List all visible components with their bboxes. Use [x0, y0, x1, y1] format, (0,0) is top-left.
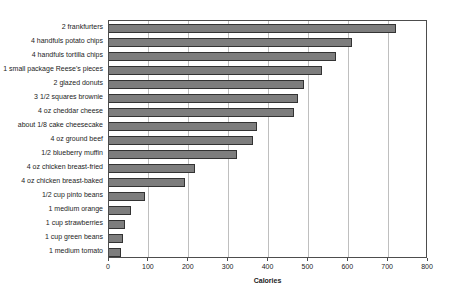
- category-label: 4 handfuls tortilla chips: [0, 48, 103, 62]
- bar: [109, 66, 322, 75]
- calorie-bar-chart: 2 frankfurters4 handfuls potato chips4 h…: [0, 0, 450, 292]
- category-label: 4 oz cheddar cheese: [0, 104, 103, 118]
- category-label: 1/2 blueberry muffin: [0, 146, 103, 160]
- x-tick-label: 0: [106, 263, 110, 271]
- bar: [109, 136, 253, 145]
- category-label: 4 oz chicken breast-fried: [0, 160, 103, 174]
- category-label: 4 oz chicken breast-baked: [0, 174, 103, 188]
- bar: [109, 220, 125, 229]
- x-tick-mark: [427, 258, 428, 261]
- bar: [109, 192, 145, 201]
- bar: [109, 94, 298, 103]
- x-tick-mark: [307, 258, 308, 261]
- bar: [109, 150, 237, 159]
- bar: [109, 52, 336, 61]
- x-tick-label: 200: [182, 263, 194, 271]
- bar: [109, 206, 131, 215]
- category-label: 3 1/2 squares brownie: [0, 90, 103, 104]
- category-label: 1 medium orange: [0, 202, 103, 216]
- gridline: [348, 21, 349, 257]
- x-tick-mark: [108, 258, 109, 261]
- bar: [109, 80, 304, 89]
- category-label: 1 medium tomato: [0, 244, 103, 258]
- x-axis-title: Calories: [108, 277, 427, 284]
- bar: [109, 122, 257, 131]
- bar: [109, 24, 396, 33]
- bar: [109, 234, 123, 243]
- x-tick-label: 600: [341, 263, 353, 271]
- bar: [109, 108, 294, 117]
- x-tick-label: 300: [222, 263, 234, 271]
- x-tick-label: 700: [381, 263, 393, 271]
- category-label: 1 small package Reese's pieces: [0, 62, 103, 76]
- bar: [109, 164, 195, 173]
- category-label: 4 oz ground beef: [0, 132, 103, 146]
- category-label: about 1/8 cake cheesecake: [0, 118, 103, 132]
- category-label: 1 cup strawberries: [0, 216, 103, 230]
- category-label: 2 glazed donuts: [0, 76, 103, 90]
- bar: [109, 38, 352, 47]
- category-label: 4 handfuls potato chips: [0, 34, 103, 48]
- x-tick-mark: [387, 258, 388, 261]
- x-tick-mark: [187, 258, 188, 261]
- x-tick-mark: [227, 258, 228, 261]
- x-tick-label: 100: [142, 263, 154, 271]
- bar: [109, 248, 121, 257]
- x-tick-label: 800: [421, 263, 433, 271]
- bar: [109, 178, 185, 187]
- x-tick-label: 500: [302, 263, 314, 271]
- x-tick-mark: [267, 258, 268, 261]
- gridline: [388, 21, 389, 257]
- category-label: 1 cup green beans: [0, 230, 103, 244]
- x-tick-mark: [347, 258, 348, 261]
- x-tick-label: 400: [262, 263, 274, 271]
- category-label: 2 frankfurters: [0, 20, 103, 34]
- category-label: 1/2 cup pinto beans: [0, 188, 103, 202]
- x-tick-mark: [147, 258, 148, 261]
- plot-area: [108, 20, 427, 258]
